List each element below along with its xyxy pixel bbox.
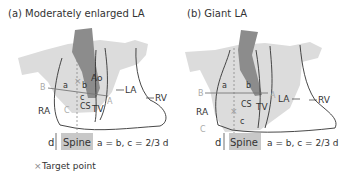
label-A: A: [107, 97, 113, 106]
label-d: d: [215, 137, 221, 148]
panel-b-title: (b) Giant LA: [187, 8, 247, 19]
label-b: b: [82, 81, 87, 90]
label-d: d: [48, 137, 54, 148]
label-A: A: [270, 91, 276, 100]
label-c: c: [80, 93, 84, 102]
label-B: B: [198, 89, 204, 98]
label-C: C: [200, 125, 206, 134]
label-la: LA: [278, 94, 290, 104]
label-tv: TV: [91, 104, 104, 114]
formula-a: a = b, c = 2/3 d: [97, 138, 168, 148]
target-point-icon: ×: [74, 76, 82, 86]
panel-a: (a) Moderately enlarged LA B A C a b c ×…: [8, 8, 168, 171]
label-rv: RV: [155, 93, 168, 103]
label-b: b: [246, 81, 251, 90]
label-cs: CS: [241, 100, 252, 109]
label-spine: Spine: [63, 137, 91, 148]
label-spine: Spine: [230, 137, 258, 148]
label-B: B: [40, 83, 46, 92]
diagram-canvas: (a) Moderately enlarged LA B A C a b c ×…: [0, 0, 347, 174]
target-point-icon: ×: [230, 106, 238, 116]
label-a: a: [222, 81, 227, 90]
label-ra: RA: [38, 106, 51, 116]
label-rv: RV: [318, 95, 331, 105]
target-point-legend-label: Target point: [41, 161, 96, 171]
label-c: c: [240, 117, 244, 126]
label-cs: CS: [80, 102, 91, 111]
label-ra: RA: [196, 107, 209, 117]
panel-b: (b) Giant LA B A C a b c × LA RV RA CS T…: [185, 8, 338, 150]
label-C: C: [64, 106, 70, 115]
formula-b: a = b, c = 2/3 d: [267, 138, 338, 148]
label-tv: TV: [255, 102, 268, 112]
label-ao: Ao: [91, 73, 103, 83]
target-point-legend-icon: ×: [34, 161, 42, 171]
label-a: a: [63, 81, 68, 90]
panel-a-title: (a) Moderately enlarged LA: [8, 8, 145, 19]
label-la: LA: [125, 85, 137, 95]
